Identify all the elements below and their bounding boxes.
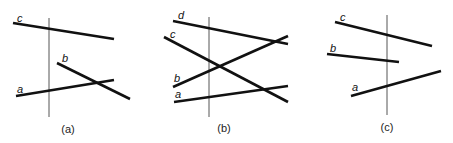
panel-caption: (c) [381,121,394,133]
panel-caption: (b) [217,122,230,134]
segment-label-a: a [352,81,358,93]
line-segment-sweep-diagram: cba(a)dcba(b)cba(c) [0,0,453,143]
panel-caption: (a) [61,123,74,135]
segment-label-c: c [170,28,176,40]
segment-label-a: a [17,83,23,95]
panel-c: cba(c) [327,11,441,133]
segment-a [351,71,441,96]
segment-a [16,80,114,96]
segment-label-b: b [174,72,180,84]
segment-b [173,36,288,87]
segment-c [13,23,114,39]
segment-c [164,37,288,102]
segment-b [327,54,399,62]
segment-label-c: c [17,12,23,24]
segment-c [335,22,432,46]
segment-label-b: b [330,42,336,54]
segment-label-c: c [340,11,346,23]
panel-a: cba(a) [13,12,130,135]
panel-b: dcba(b) [164,9,288,134]
segment-label-b: b [62,52,68,64]
segment-label-d: d [178,9,185,21]
segment-b [57,63,130,99]
segment-d [173,21,288,44]
segment-label-a: a [175,88,181,100]
